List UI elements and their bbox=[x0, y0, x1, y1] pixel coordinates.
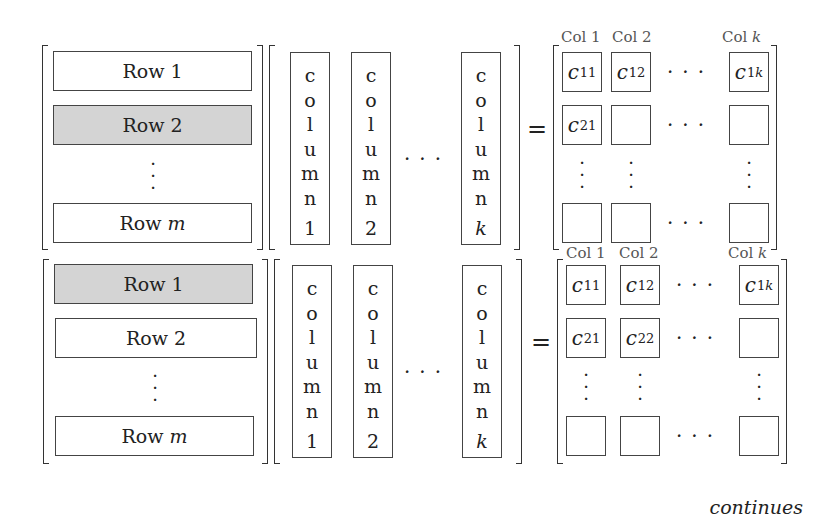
result-cell-c22-highlighted: c22 bbox=[620, 318, 660, 358]
col-header-2: Col 2 bbox=[612, 28, 652, 46]
horizontal-ellipsis: ··· bbox=[667, 60, 713, 84]
result-cell-empty bbox=[620, 416, 660, 456]
vertical-ellipsis: ··· bbox=[148, 158, 158, 194]
row-label: Row bbox=[123, 273, 165, 295]
cell-var: c bbox=[617, 60, 628, 84]
row-index: m bbox=[168, 212, 186, 234]
cell-var: c bbox=[745, 273, 756, 297]
row-label: Row bbox=[126, 327, 168, 349]
horizontal-ellipsis: ··· bbox=[676, 273, 722, 297]
row-index: m bbox=[170, 425, 188, 447]
right-matrix-close-bracket bbox=[514, 45, 520, 250]
result-open-bracket bbox=[557, 259, 563, 464]
col-letter: m bbox=[364, 374, 382, 399]
cell-sub: 1k bbox=[757, 278, 773, 293]
col-letter: l bbox=[478, 112, 484, 137]
column-box-k: c o l u m n k bbox=[461, 52, 501, 245]
result-cell-c12: c12 bbox=[611, 52, 651, 92]
result-cell-c21-highlighted: c21 bbox=[562, 105, 602, 145]
row-index: 1 bbox=[170, 60, 182, 82]
col-letter: l bbox=[307, 112, 313, 137]
panel-row1-times-col2: Row 1 Row 2 ··· Row m c o l u m n 1 c o … bbox=[0, 232, 831, 462]
col-letter: u bbox=[306, 350, 318, 375]
col-letter: l bbox=[309, 325, 315, 350]
col-letter: u bbox=[304, 137, 316, 162]
col-letter: n bbox=[367, 399, 379, 424]
right-matrix-open-bracket bbox=[269, 45, 275, 250]
col-letter: m bbox=[303, 374, 321, 399]
col-letter: c bbox=[476, 63, 487, 88]
equals-sign: = bbox=[527, 115, 547, 143]
column-box-1-highlighted: c o l u m n 1 bbox=[290, 52, 330, 245]
cell-var: c bbox=[626, 273, 637, 297]
horizontal-ellipsis: ··· bbox=[676, 326, 722, 350]
result-cell-empty bbox=[566, 416, 606, 456]
panel-row2-times-col1: Row 1 Row 2 ··· Row m c o l u m n 1 c o … bbox=[0, 0, 831, 230]
column-box-2-highlighted: c o l u m n 2 bbox=[353, 265, 393, 458]
col-letter: o bbox=[476, 301, 487, 326]
col-letter: u bbox=[476, 350, 488, 375]
column-box-1: c o l u m n 1 bbox=[292, 265, 332, 458]
vertical-ellipsis: ··· bbox=[754, 369, 764, 405]
cell-sub: 1k bbox=[747, 65, 763, 80]
col-letter: u bbox=[367, 350, 379, 375]
col-letter: u bbox=[475, 137, 487, 162]
continues-caption: continues bbox=[710, 496, 804, 518]
row-box-1: Row 1 bbox=[53, 51, 252, 91]
result-cell-empty bbox=[729, 105, 769, 145]
col-letter: n bbox=[476, 399, 488, 424]
col-letter: n bbox=[306, 399, 318, 424]
col-letter: m bbox=[362, 161, 380, 186]
row-box-2-highlighted: Row 2 bbox=[53, 105, 252, 145]
left-matrix-close-bracket bbox=[257, 45, 263, 250]
result-cell-c12: c12 bbox=[620, 265, 660, 305]
cell-sub: 11 bbox=[584, 278, 601, 293]
result-cell-c21: c21 bbox=[566, 318, 606, 358]
result-open-bracket bbox=[553, 45, 559, 250]
equals-sign: = bbox=[531, 328, 551, 356]
col-letter: c bbox=[305, 63, 316, 88]
vertical-ellipsis: ··· bbox=[744, 157, 754, 193]
result-cell-c1k: c1k bbox=[729, 52, 769, 92]
result-close-bracket bbox=[781, 259, 787, 464]
row-label: Row bbox=[122, 114, 164, 136]
col-letter: c bbox=[368, 276, 379, 301]
col-letter: c bbox=[366, 63, 377, 88]
col-letter: c bbox=[477, 276, 488, 301]
row-label: Row bbox=[121, 425, 163, 447]
col-letter: l bbox=[370, 325, 376, 350]
right-matrix-open-bracket bbox=[274, 259, 280, 464]
col-header-k: Col k bbox=[728, 244, 767, 262]
row-box-1-highlighted: Row 1 bbox=[54, 264, 253, 304]
cell-sub: 21 bbox=[580, 118, 597, 133]
col-letter: l bbox=[479, 325, 485, 350]
col-header-k: Col k bbox=[722, 28, 761, 46]
row-index: 2 bbox=[174, 327, 186, 349]
cell-var: c bbox=[572, 326, 583, 350]
col-letter: l bbox=[368, 112, 374, 137]
row-label: Row bbox=[119, 212, 161, 234]
row-index: 1 bbox=[171, 273, 183, 295]
col-letter: n bbox=[365, 186, 377, 211]
col-letter: n bbox=[475, 186, 487, 211]
col-header-1: Col 1 bbox=[561, 28, 601, 46]
row-box-m: Row m bbox=[55, 416, 254, 456]
col-letter: c bbox=[307, 276, 318, 301]
column-box-2: c o l u m n 2 bbox=[351, 52, 391, 245]
vertical-ellipsis: ··· bbox=[581, 369, 591, 405]
col-header-1: Col 1 bbox=[566, 244, 606, 262]
col-letter: o bbox=[304, 88, 315, 113]
cell-sub: 11 bbox=[580, 65, 597, 80]
row-index: 2 bbox=[170, 114, 182, 136]
col-letter: n bbox=[304, 186, 316, 211]
cell-var: c bbox=[572, 273, 583, 297]
horizontal-ellipsis: ··· bbox=[404, 147, 450, 171]
result-close-bracket bbox=[771, 45, 777, 250]
horizontal-ellipsis: ··· bbox=[404, 360, 450, 384]
col-index: 2 bbox=[367, 429, 379, 454]
left-matrix-close-bracket bbox=[262, 259, 268, 464]
horizontal-ellipsis: ··· bbox=[676, 424, 722, 448]
vertical-ellipsis: ··· bbox=[626, 157, 636, 193]
col-letter: u bbox=[365, 137, 377, 162]
col-letter: o bbox=[367, 301, 378, 326]
